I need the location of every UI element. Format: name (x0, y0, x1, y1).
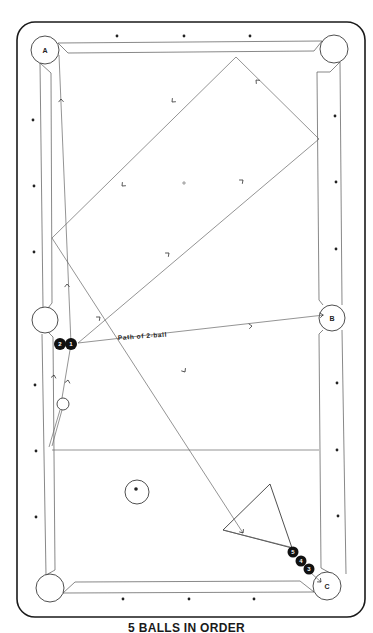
ball-path-line (59, 55, 71, 344)
ball-1: 1 (65, 338, 77, 350)
spot-circle (125, 480, 149, 504)
table-outer-rail (17, 22, 365, 617)
arrow-icon (181, 368, 187, 373)
rail-diamond (33, 251, 36, 254)
pocket-side-left (32, 307, 58, 333)
arrow-icon (120, 182, 126, 188)
ball-5: 5 (288, 547, 299, 558)
rail-diamond (253, 598, 256, 601)
ball-path-line (62, 344, 71, 398)
pocket-top-right (320, 35, 348, 63)
arrow-icon (239, 178, 245, 184)
balls: 21543 (54, 338, 315, 575)
arrow-icon (170, 98, 176, 104)
pocket-label: A (42, 47, 47, 54)
pocket-c: C (313, 572, 341, 600)
diagram-caption: 5 BALLS IN ORDER (0, 622, 373, 633)
table-markings (52, 181, 319, 548)
ball-path-line (52, 238, 243, 533)
rail-diamond (35, 450, 38, 453)
ball-2: 2 (54, 338, 66, 350)
arrow-icon (249, 324, 253, 329)
rail-diamond (249, 35, 252, 38)
arrow-icon (51, 375, 56, 379)
ball-path-line (78, 315, 324, 343)
pocket-b: B (319, 305, 345, 331)
center-spot-mark (182, 181, 186, 185)
arrow-icon (96, 315, 102, 321)
ball-path-line (223, 530, 294, 548)
rail-diamond (183, 35, 186, 38)
ball-3: 3 (304, 564, 315, 575)
rail-diamond (335, 181, 338, 184)
rail-diamond (34, 384, 37, 387)
arrow-icon (65, 380, 70, 384)
rail-diamond (337, 515, 340, 518)
pocket-label: C (324, 583, 329, 590)
spot-dot (134, 487, 138, 491)
ball-paths (49, 55, 324, 582)
pockets: ABC (31, 35, 348, 602)
rail-diamond (334, 115, 337, 118)
rail-diamond (122, 598, 125, 601)
bottom-rail-line (63, 592, 314, 593)
rail-diamond (335, 248, 338, 251)
rail-diamonds (32, 35, 340, 601)
arrow-icon (165, 251, 171, 257)
ball-path-line (49, 410, 60, 447)
path-of-2-ball-label: Path of 2-ball (118, 331, 168, 341)
rail-diamond (188, 598, 191, 601)
rail-diamond (32, 119, 35, 122)
bottom-cushion (63, 581, 314, 593)
rail-diamond (336, 449, 339, 452)
cushions (40, 41, 346, 593)
pocket-bottom-left (36, 574, 64, 602)
cue-ball (57, 398, 69, 410)
pocket-label: B (329, 315, 334, 322)
ball-4: 4 (296, 556, 307, 567)
arrow-icon (254, 78, 260, 84)
pocket-a: A (31, 36, 59, 64)
top-rail-line (58, 41, 322, 43)
table-rail (17, 22, 365, 617)
rail-diamond (33, 185, 36, 188)
rail-diamond (116, 35, 119, 38)
rail-diamond (35, 516, 38, 519)
rail-diamond (336, 382, 339, 385)
billiard-table-diagram: ABC 21543 Path of 2-ball (0, 0, 373, 633)
